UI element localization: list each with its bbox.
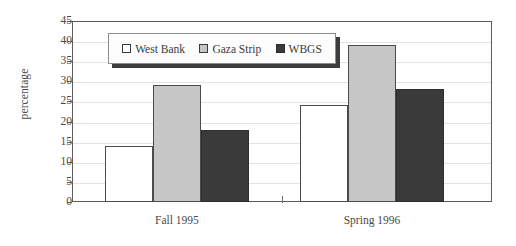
bar-fall-1995-west-bank	[105, 146, 153, 202]
legend-entry-west-bank[interactable]: West Bank	[122, 43, 185, 55]
legend-entry-gaza-strip[interactable]: Gaza Strip	[199, 43, 261, 55]
legend-label: West Bank	[135, 43, 185, 55]
legend-label: Gaza Strip	[212, 43, 261, 55]
x-axis-label-spring-1996: Spring 1996	[312, 214, 432, 226]
bar-spring-1996-wbgs	[396, 89, 444, 202]
bar-chart: percentage 454035302520151050 Fall 1995S…	[0, 0, 516, 246]
y-tick-mark	[67, 202, 72, 203]
chart-legend[interactable]: West BankGaza StripWBGS	[108, 33, 336, 64]
y-axis-title: percentage	[18, 44, 30, 144]
x-axis-label-fall-1995: Fall 1995	[117, 214, 237, 226]
bar-fall-1995-wbgs	[201, 130, 249, 202]
legend-shadow-bottom	[112, 64, 340, 68]
legend-swatch-icon	[122, 44, 131, 53]
bar-spring-1996-west-bank	[300, 105, 348, 202]
legend-swatch-icon	[199, 44, 208, 53]
x-axis-group-tick	[282, 196, 283, 203]
y-axis-ticks: 454035302520151050	[44, 0, 72, 246]
legend-label: WBGS	[289, 43, 322, 55]
bar-spring-1996-gaza-strip	[348, 45, 396, 202]
legend-swatch-icon	[276, 44, 285, 53]
legend-entry-wbgs[interactable]: WBGS	[276, 43, 322, 55]
bar-fall-1995-gaza-strip	[153, 85, 201, 202]
